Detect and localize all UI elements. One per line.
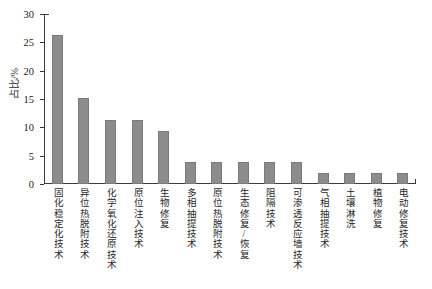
- x-label-slot: 电动修复技术: [390, 188, 417, 286]
- plot-area: 051015202530: [44, 14, 416, 184]
- bar-slot: [203, 14, 230, 184]
- bar[interactable]: [238, 162, 249, 184]
- x-axis-label: 可渗透反应墙技术: [291, 188, 302, 270]
- bar-slot: [124, 14, 151, 184]
- bar[interactable]: [211, 162, 222, 184]
- x-axis-label: 异位热脱附技术: [78, 188, 89, 260]
- bar-slot: [310, 14, 337, 184]
- y-axis-tick-label: 25: [24, 37, 35, 48]
- bar[interactable]: [318, 173, 329, 184]
- y-axis-tick-label: 30: [24, 9, 35, 20]
- bar[interactable]: [371, 173, 382, 184]
- bar-slot: [336, 14, 363, 184]
- x-axis-label: 原位注入技术: [132, 188, 143, 250]
- x-label-slot: 植物修复: [363, 188, 390, 286]
- x-label-slot: 生物修复: [150, 188, 177, 286]
- bar-slot: [363, 14, 390, 184]
- x-axis-label: 植物修复: [371, 188, 382, 229]
- x-axis-label: 土壤淋洗: [344, 188, 355, 229]
- x-label-slot: 化学氧化还原技术: [97, 188, 124, 286]
- bar-slot: [150, 14, 177, 184]
- bar[interactable]: [78, 98, 89, 184]
- x-axis-label: 电动修复技术: [397, 188, 408, 250]
- bar-slot: [230, 14, 257, 184]
- bar[interactable]: [105, 120, 116, 184]
- bar-slot: [283, 14, 310, 184]
- x-axis-label: 原位热脱附技术: [211, 188, 222, 260]
- x-axis-label: 化学氧化还原技术: [105, 188, 116, 270]
- y-axis-tick-label: 15: [24, 94, 35, 105]
- y-axis-title: 占比/%: [6, 49, 21, 119]
- bar-series: [44, 14, 416, 184]
- bar-slot: [390, 14, 417, 184]
- x-label-slot: 可渗透反应墙技术: [283, 188, 310, 286]
- x-axis-label: 生物修复: [158, 188, 169, 229]
- x-label-slot: 异位热脱附技术: [71, 188, 98, 286]
- bar[interactable]: [52, 35, 63, 184]
- bar-slot: [44, 14, 71, 184]
- bar-chart: 占比/% 051015202530 固化稳定化技术异位热脱附技术化学氧化还原技术…: [0, 0, 432, 289]
- x-axis-label: 生态修复/恢复: [238, 188, 249, 260]
- x-label-slot: 阻隔技术: [257, 188, 284, 286]
- bar-slot: [71, 14, 98, 184]
- bar-slot: [257, 14, 284, 184]
- bar[interactable]: [264, 162, 275, 184]
- x-label-slot: 气相抽提技术: [310, 188, 337, 286]
- y-axis-tick-label: 0: [29, 179, 34, 190]
- y-axis-tick-label: 5: [29, 150, 34, 161]
- bar[interactable]: [344, 173, 355, 184]
- x-label-slot: 生态修复/恢复: [230, 188, 257, 286]
- y-axis-tick-label: 10: [24, 122, 35, 133]
- bar[interactable]: [291, 162, 302, 184]
- bar-slot: [97, 14, 124, 184]
- bar-slot: [177, 14, 204, 184]
- x-axis-label: 气相抽提技术: [318, 188, 329, 250]
- x-axis-label: 固化稳定化技术: [52, 188, 63, 260]
- y-axis-tick: 0: [40, 184, 44, 185]
- x-label-slot: 土壤淋洗: [336, 188, 363, 286]
- x-axis-label: 阻隔技术: [264, 188, 275, 229]
- bar[interactable]: [397, 173, 408, 184]
- bar[interactable]: [132, 120, 143, 184]
- x-label-slot: 原位热脱附技术: [203, 188, 230, 286]
- bar[interactable]: [158, 131, 169, 184]
- bar[interactable]: [185, 162, 196, 184]
- y-axis-tick-label: 20: [24, 65, 35, 76]
- x-label-slot: 原位注入技术: [124, 188, 151, 286]
- x-label-slot: 多相抽提技术: [177, 188, 204, 286]
- x-axis-labels: 固化稳定化技术异位热脱附技术化学氧化还原技术原位注入技术生物修复多相抽提技术原位…: [44, 188, 416, 286]
- x-label-slot: 固化稳定化技术: [44, 188, 71, 286]
- x-axis-label: 多相抽提技术: [185, 188, 196, 250]
